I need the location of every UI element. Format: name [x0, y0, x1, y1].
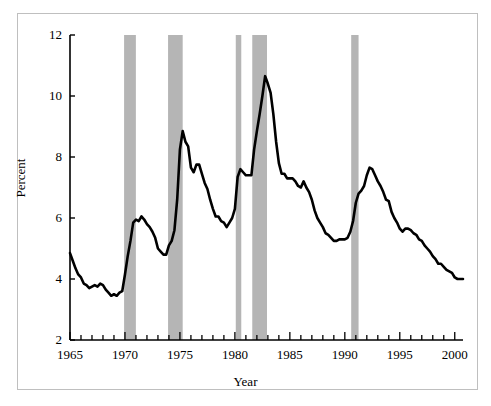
y-tick-label: 4: [22, 272, 62, 285]
x-axis-title: Year: [0, 374, 491, 390]
x-tick-label: 2000: [425, 348, 485, 361]
y-tick-label: 2: [22, 333, 62, 346]
x-tick-label: 1990: [315, 348, 375, 361]
unemployment-line-chart: [0, 0, 491, 406]
y-axis-title: Percent: [13, 138, 29, 218]
x-tick-label: 1970: [95, 348, 155, 361]
x-tick-label: 1975: [150, 348, 210, 361]
y-tick-label: 12: [22, 28, 62, 41]
recession-band: [124, 35, 135, 340]
recession-band: [168, 35, 183, 340]
x-tick-label: 1980: [205, 348, 265, 361]
x-tick-label: 1995: [370, 348, 430, 361]
recession-shading-group: [124, 35, 358, 340]
y-tick-label: 10: [22, 89, 62, 102]
recession-band: [135, 35, 136, 340]
x-tick-label: 1985: [260, 348, 320, 361]
recession-band: [351, 35, 358, 340]
figure-container: 2468101219651970197519801985199019952000…: [0, 0, 491, 406]
x-tick-label: 1965: [40, 348, 100, 361]
